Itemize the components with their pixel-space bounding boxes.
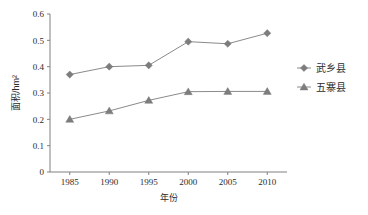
- y-axis-title: 面积/hm²: [10, 75, 21, 111]
- data-point-diamond: [145, 62, 152, 69]
- y-tick-label: 0.2: [33, 115, 44, 125]
- series-layer: [66, 30, 272, 123]
- y-tick-label: 0.4: [33, 62, 45, 72]
- y-tick-label: 0.5: [33, 36, 45, 46]
- x-tick-label: 2005: [219, 177, 238, 187]
- series-line-diamond: [70, 33, 268, 74]
- legend-label[interactable]: 武乡县: [316, 62, 346, 74]
- y-tick-label: 0: [40, 167, 45, 177]
- data-point-diamond: [106, 63, 113, 70]
- legend-label[interactable]: 五寨县: [316, 81, 346, 93]
- y-tick-label: 0.1: [33, 141, 44, 151]
- x-axis-title: 年份: [160, 192, 178, 203]
- y-tick-label: 0.6: [33, 9, 45, 19]
- data-point-diamond: [224, 40, 231, 47]
- x-tick-label: 1990: [100, 177, 119, 187]
- x-axis-ticks: 198519901995200020052010: [61, 172, 277, 187]
- y-tick-label: 0.3: [33, 88, 45, 98]
- y-axis-ticks: 00.10.20.30.40.50.6: [33, 9, 50, 177]
- x-tick-label: 1995: [140, 177, 159, 187]
- legend-marker-diamond: [300, 64, 307, 71]
- data-point-diamond: [66, 71, 73, 78]
- x-tick-label: 2000: [179, 177, 198, 187]
- x-tick-label: 2010: [258, 177, 277, 187]
- chart-legend: 武乡县五寨县: [297, 62, 346, 93]
- data-point-diamond: [185, 38, 192, 45]
- series-line-triangle: [70, 91, 268, 119]
- data-point-diamond: [264, 30, 271, 37]
- chart-canvas: 00.10.20.30.40.50.6 19851990199520002005…: [0, 0, 368, 215]
- line-chart: 00.10.20.30.40.50.6 19851990199520002005…: [0, 0, 368, 215]
- x-tick-label: 1985: [61, 177, 80, 187]
